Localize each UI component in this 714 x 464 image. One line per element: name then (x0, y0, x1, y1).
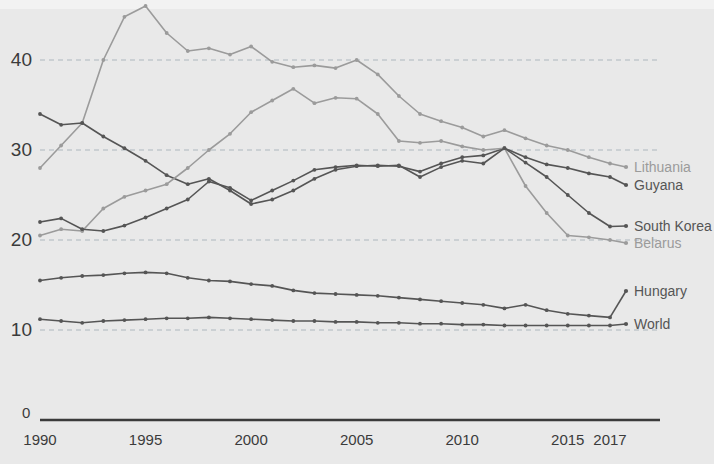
data-point (418, 141, 422, 145)
data-point (291, 319, 295, 323)
data-point (503, 324, 507, 328)
data-point (545, 175, 549, 179)
data-point (38, 279, 42, 283)
data-point (38, 112, 42, 116)
legend-dot (624, 165, 628, 169)
y-tick-0: 0 (22, 405, 30, 420)
data-point (59, 144, 63, 148)
data-point (80, 274, 84, 278)
data-point (270, 99, 274, 103)
data-point (334, 292, 338, 296)
data-point (144, 4, 148, 8)
data-point (460, 159, 464, 163)
data-point (38, 166, 42, 170)
data-point (165, 207, 169, 211)
series-lines (38, 4, 612, 327)
data-point (587, 314, 591, 318)
data-point (186, 182, 190, 186)
data-point (291, 189, 295, 193)
data-point (397, 163, 401, 167)
data-point (376, 112, 380, 116)
leader-line-world (610, 324, 626, 326)
data-point (186, 316, 190, 320)
data-point (38, 317, 42, 321)
line-chart: 102030400 1990199520002005201020152017 L… (0, 0, 714, 464)
data-point (524, 303, 528, 307)
data-point (207, 148, 211, 152)
data-point (207, 180, 211, 184)
data-point (481, 135, 485, 139)
data-point (165, 173, 169, 177)
legend-label-world: World (634, 317, 670, 331)
data-point (144, 317, 148, 321)
data-point (207, 316, 211, 320)
data-point (439, 322, 443, 326)
data-point (123, 271, 127, 275)
data-point (80, 121, 84, 125)
data-point (439, 165, 443, 169)
data-point (270, 198, 274, 202)
series-line-south-korea (40, 148, 610, 231)
data-point (144, 271, 148, 275)
data-point (228, 186, 232, 190)
data-point (165, 182, 169, 186)
data-point (59, 319, 63, 323)
data-point (186, 276, 190, 280)
data-point (38, 220, 42, 224)
data-point (545, 308, 549, 312)
data-point (545, 211, 549, 215)
plot-area (0, 0, 714, 464)
data-point (59, 217, 63, 221)
y-tick-30: 30 (0, 140, 32, 159)
leader-line-guyana (610, 177, 626, 185)
data-point (524, 184, 528, 188)
series-line-belarus (40, 89, 610, 240)
data-point (524, 161, 528, 165)
data-point (249, 282, 253, 286)
data-point (376, 294, 380, 298)
data-point (397, 94, 401, 98)
data-point (186, 49, 190, 53)
data-point (524, 324, 528, 328)
data-point (481, 162, 485, 166)
data-point (270, 318, 274, 322)
data-point (418, 322, 422, 326)
data-point (101, 207, 105, 211)
data-point (376, 73, 380, 77)
x-tick-2000: 2000 (221, 432, 281, 447)
data-point (481, 303, 485, 307)
data-point (249, 110, 253, 114)
legend-dot (624, 289, 628, 293)
leader-line-hungary (610, 291, 626, 317)
data-point (123, 224, 127, 228)
data-point (418, 112, 422, 116)
data-point (587, 235, 591, 239)
data-point (228, 53, 232, 57)
data-point (186, 198, 190, 202)
data-point (123, 15, 127, 19)
data-point (418, 170, 422, 174)
data-point (59, 227, 63, 231)
data-point (460, 323, 464, 327)
data-point (249, 199, 253, 203)
data-point (587, 211, 591, 215)
data-point (123, 318, 127, 322)
data-point (291, 87, 295, 91)
legend-label-hungary: Hungary (634, 284, 687, 298)
data-point (355, 163, 359, 167)
legend-dot (624, 322, 628, 326)
series-line-lithuania (40, 6, 610, 168)
legend-dot (624, 183, 628, 187)
series-line-hungary (40, 272, 610, 317)
data-point (481, 323, 485, 327)
leader-line-south-korea (610, 226, 626, 227)
data-point (249, 45, 253, 49)
data-point (439, 162, 443, 166)
data-point (587, 324, 591, 328)
data-point (566, 312, 570, 316)
data-point (355, 320, 359, 324)
leader-line-lithuania (610, 164, 626, 168)
data-point (376, 164, 380, 168)
legend-leader-lines (610, 164, 628, 327)
data-point (123, 195, 127, 199)
